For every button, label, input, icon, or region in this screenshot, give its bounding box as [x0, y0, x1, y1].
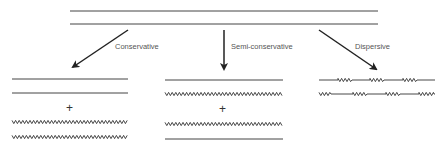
mixed-strand [319, 78, 435, 81]
plus-sign: + [219, 102, 226, 116]
label-semi-conservative: Semi-conservative [231, 42, 293, 51]
parent-molecule [70, 11, 378, 24]
replication-diagram: Conservative Semi-conservative Dispersiv… [0, 0, 444, 152]
new-strand [12, 135, 127, 138]
label-conservative: Conservative [115, 42, 159, 51]
mixed-strand [319, 92, 435, 95]
label-dispersive: Dispersive [355, 42, 390, 51]
new-strand [165, 92, 282, 95]
conservative-products: + [12, 79, 128, 139]
plus-sign: + [66, 101, 73, 115]
dispersive-products [319, 78, 435, 95]
new-strand [165, 122, 282, 125]
semi-conservative-products: + [165, 80, 283, 139]
new-strand [12, 120, 127, 123]
